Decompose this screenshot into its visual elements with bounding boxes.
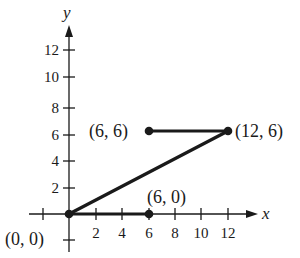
- x-tick-label: 10: [194, 225, 209, 241]
- point-label-origin: (0, 0): [5, 229, 44, 250]
- point-6-6: [145, 127, 154, 136]
- y-tick-label: 2: [52, 180, 60, 196]
- point-6-0: [145, 210, 154, 219]
- point-label-12-6: (12, 6): [235, 121, 283, 142]
- y-tick-label: 8: [52, 100, 60, 116]
- y-tick-label: 6: [52, 127, 60, 143]
- point-label-6-6: (6, 6): [89, 121, 128, 142]
- x-tick-label: 8: [171, 225, 179, 241]
- y-axis-label: y: [61, 3, 71, 22]
- point-origin: [65, 210, 74, 219]
- x-axis-label: x: [261, 204, 270, 223]
- y-tick-label: 4: [52, 153, 60, 169]
- coordinate-plane-diagram: x y 2 4 6 8 10 12 2 4 6 8 10 12 (0, 0) (…: [0, 0, 300, 258]
- y-axis-arrow-icon: [65, 25, 73, 37]
- y-tick-label: 10: [44, 69, 59, 85]
- x-tick-label: 12: [221, 225, 236, 241]
- point-12-6: [224, 127, 233, 136]
- x-tick-label: 4: [118, 225, 126, 241]
- x-axis-arrow-icon: [246, 210, 258, 218]
- x-tick-label: 6: [145, 225, 153, 241]
- y-tick-label: 12: [44, 42, 59, 58]
- x-tick-label: 2: [92, 225, 100, 241]
- point-label-6-0: (6, 0): [147, 187, 186, 208]
